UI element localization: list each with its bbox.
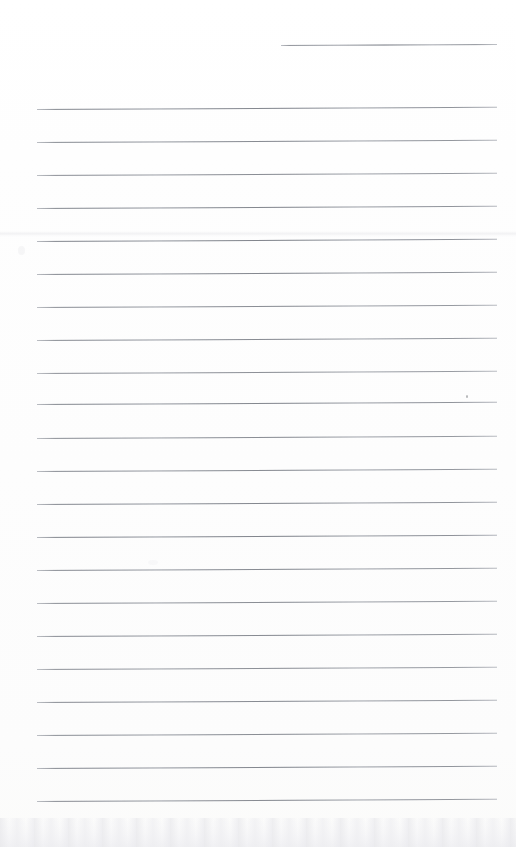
ruled-line xyxy=(37,140,497,143)
ruled-line-partial xyxy=(281,44,497,46)
paper-blotch xyxy=(18,246,25,255)
ruled-line xyxy=(37,206,497,209)
ruled-line xyxy=(37,799,497,802)
ruled-line xyxy=(37,173,497,176)
ruled-line xyxy=(37,601,497,604)
paper-surface xyxy=(0,0,516,847)
ruled-line xyxy=(37,469,497,472)
paper-blotch xyxy=(148,560,158,565)
bottom-edge-noise-artifact xyxy=(0,818,516,847)
ruled-line xyxy=(37,305,497,308)
ruled-line xyxy=(37,502,497,505)
ruled-line xyxy=(37,436,497,439)
ruled-line xyxy=(37,634,497,637)
ruled-line xyxy=(37,371,497,374)
ruled-line xyxy=(37,568,497,571)
ruled-line xyxy=(37,402,497,405)
ruled-line xyxy=(37,107,497,110)
scan-band-artifact xyxy=(0,231,516,237)
ruled-line xyxy=(37,272,497,275)
ruled-line xyxy=(37,338,497,341)
ruled-line xyxy=(37,667,497,670)
ruled-line xyxy=(37,700,497,703)
ink-dot-mark xyxy=(466,395,468,398)
ruled-line xyxy=(37,239,497,242)
ruled-line xyxy=(37,733,497,736)
ruled-line xyxy=(37,535,497,538)
ruled-line xyxy=(37,766,497,769)
scanned-page xyxy=(0,0,516,847)
